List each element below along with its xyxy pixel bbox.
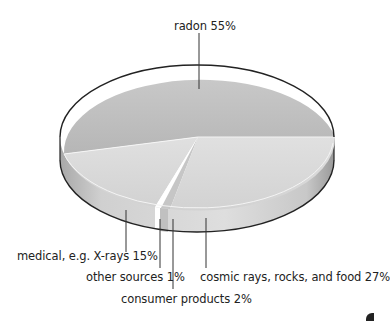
label-consumer: consumer products 2% — [121, 292, 252, 306]
side-other-sources — [155, 207, 160, 231]
label-cosmic: cosmic rays, rocks, and food 27% — [200, 270, 390, 284]
side-consumer-products — [160, 208, 168, 232]
page-corner-tab — [366, 313, 374, 321]
label-medical: medical, e.g. X-rays 15% — [17, 249, 158, 263]
label-radon: radon 55% — [174, 19, 236, 33]
label-other-sources: other sources 1% — [86, 270, 185, 284]
